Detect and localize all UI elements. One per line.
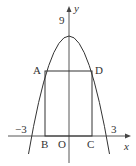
x-axis-label: x [123,140,129,152]
point-d-label: D [95,64,103,76]
origin-label: O [58,138,66,150]
point-b-label: B [41,138,48,150]
y-axis-arrow-icon [67,6,72,12]
point-c-label: C [87,138,94,150]
rectangle-abcd [45,71,92,136]
y-axis-label: y [73,2,79,14]
x-right-intercept-label: 3 [111,123,117,135]
point-a-label: A [33,64,41,76]
diagram-canvas: y x 9 −3 3 O A D B C [0,0,136,166]
y-intercept-label: 9 [59,14,65,26]
x-axis-arrow-icon [125,134,131,139]
x-left-intercept-label: −3 [15,123,27,135]
